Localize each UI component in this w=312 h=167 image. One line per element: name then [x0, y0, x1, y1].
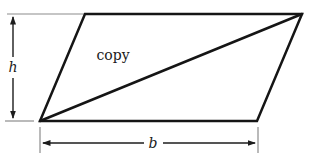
figure-canvas: copy h b [0, 0, 312, 167]
interior-label: copy [96, 47, 129, 63]
parallelogram-diagram: copy h b [0, 0, 312, 167]
base-label: b [149, 135, 158, 151]
height-label: h [8, 59, 17, 75]
